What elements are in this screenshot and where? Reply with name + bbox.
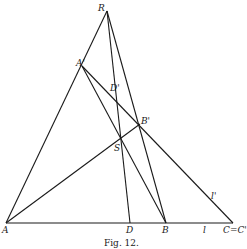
label-b: B xyxy=(161,225,169,235)
label-line-l: l xyxy=(203,225,206,235)
geometric-figure: R A' D' B' S A D B C=C' l l' Fig. 12. xyxy=(0,0,247,249)
label-s: S xyxy=(114,143,120,153)
label-a-prime: A' xyxy=(75,58,85,68)
label-c: C=C' xyxy=(223,225,247,235)
label-line-l-prime: l' xyxy=(211,191,216,201)
line-a-b1 xyxy=(6,124,140,223)
line-r-b xyxy=(107,11,166,223)
line-r-d xyxy=(107,11,130,223)
label-d-prime: D' xyxy=(109,83,120,93)
figure-caption: Fig. 12. xyxy=(104,238,139,248)
label-d: D xyxy=(125,225,133,235)
line-a-r xyxy=(6,11,107,223)
label-b-prime: B' xyxy=(140,116,150,126)
line-a1-b xyxy=(82,66,166,223)
label-r: R xyxy=(97,3,105,13)
label-a: A xyxy=(1,225,9,235)
